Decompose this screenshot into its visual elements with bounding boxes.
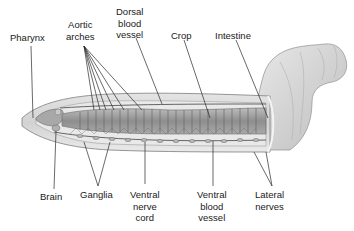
worm-body: [22, 93, 273, 152]
label-intestine: Intestine: [215, 30, 251, 42]
pharynx-leader: [31, 46, 33, 118]
label-lateral-nerves: Lateral nerves: [255, 189, 284, 212]
label-dorsal-blood-vessel: Dorsal blood vessel: [116, 6, 143, 41]
label-brain: Brain: [40, 191, 62, 203]
label-pharynx: Pharynx: [10, 32, 45, 44]
label-ganglia: Ganglia: [80, 189, 113, 201]
label-aortic-arches: Aortic arches: [66, 19, 95, 42]
label-crop: Crop: [171, 30, 192, 42]
label-ventral-nerve-cord: Ventral nerve cord: [130, 189, 160, 224]
label-ventral-blood-vessel: Ventral blood vessel: [197, 189, 227, 224]
earthworm-diagram: Pharynx Aortic arches Dorsal blood vesse…: [0, 0, 354, 231]
